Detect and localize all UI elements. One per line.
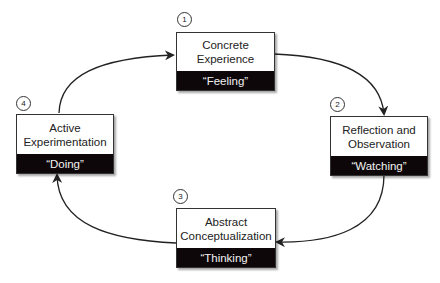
stage-reflection-observation: Reflection and Observation “Watching”	[330, 116, 428, 176]
stage-number-4: 4	[16, 96, 31, 111]
stage-abstract-conceptualization: Abstract Conceptualization “Thinking”	[176, 208, 276, 268]
stage-title: Abstract Conceptualization	[177, 209, 275, 248]
stage-subtitle: “Watching”	[331, 156, 427, 175]
arrow-2-to-3	[277, 175, 384, 242]
stage-concrete-experience: Concrete Experience “Feeling”	[176, 32, 275, 91]
arrow-1-to-2	[274, 54, 384, 114]
stage-number-1: 1	[177, 12, 192, 27]
stage-number-3: 3	[173, 189, 188, 204]
arrow-4-to-1	[59, 55, 173, 113]
arrow-3-to-4	[57, 175, 176, 243]
stage-title: Active Experimentation	[17, 115, 113, 154]
stage-active-experimentation: Active Experimentation “Doing”	[16, 114, 114, 174]
stage-number-2: 2	[330, 97, 345, 112]
stage-title: Concrete Experience	[177, 33, 274, 71]
stage-subtitle: “Thinking”	[177, 248, 275, 267]
stage-title: Reflection and Observation	[331, 117, 427, 156]
stage-subtitle: “Feeling”	[177, 71, 274, 90]
stage-subtitle: “Doing”	[17, 154, 113, 173]
